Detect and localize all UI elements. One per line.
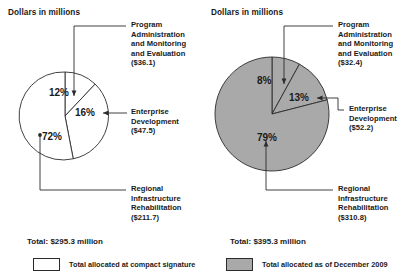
callout-program-line-2: Administration xyxy=(131,30,205,40)
slice-percent-program-left: 12% xyxy=(49,87,69,98)
legend-label-compact-signature: Total allocated at compact signature xyxy=(69,260,195,269)
callout-regional-left: Regional Infrastructure Rehabilitation (… xyxy=(131,184,205,222)
callout-program-line-3: and Monitoring xyxy=(338,39,409,49)
callout-regional-amount: ($310.8) xyxy=(338,213,409,223)
callout-regional-line-3: Rehabilitation xyxy=(131,203,205,213)
callout-regional-line-1: Regional xyxy=(131,184,205,194)
callout-regional-line-2: Infrastructure xyxy=(338,194,409,204)
callout-program-amount: ($32.4) xyxy=(338,58,409,68)
callout-regional-amount: ($211.7) xyxy=(131,213,205,223)
slice-percent-enterprise-right: 13% xyxy=(289,92,309,103)
legend-swatch-december-2009 xyxy=(226,258,253,271)
legend-left: Total allocated at compact signature xyxy=(33,258,195,271)
callout-program-line-4: and Evaluation xyxy=(131,49,205,59)
legend-label-december-2009: Total allocated as of December 2009 xyxy=(262,260,388,269)
legend-right: Total allocated as of December 2009 xyxy=(226,258,388,271)
slice-percent-regional-left: 72% xyxy=(42,131,62,142)
total-label-left: Total: $295.3 million xyxy=(27,237,103,246)
callout-regional-line-2: Infrastructure xyxy=(131,194,205,204)
callout-program-line-2: Administration xyxy=(338,30,409,40)
callout-regional-line-3: Rehabilitation xyxy=(338,203,409,213)
callout-program-left: Program Administration and Monitoring an… xyxy=(131,20,205,68)
callout-enterprise-amount: ($52.2) xyxy=(349,123,409,133)
callout-program-line-4: and Evaluation xyxy=(338,49,409,59)
total-label-right: Total: $395.3 million xyxy=(230,237,306,246)
callout-enterprise-line-2: Development xyxy=(131,117,205,127)
slice-percent-program-right: 8% xyxy=(257,75,271,86)
pie-slice-regional-left xyxy=(19,72,73,160)
slice-percent-regional-right: 79% xyxy=(257,132,277,143)
pie-panel-compact-signature: Dollars in millions xyxy=(0,0,205,279)
callout-program-line-1: Program xyxy=(338,20,409,30)
callout-program-right: Program Administration and Monitoring an… xyxy=(338,20,409,68)
callout-regional-right: Regional Infrastructure Rehabilitation (… xyxy=(338,184,409,222)
two-pie-chart-figure: Dollars in millions xyxy=(0,0,409,279)
callout-enterprise-line-1: Enterprise xyxy=(349,104,409,114)
callout-program-line-3: and Monitoring xyxy=(131,39,205,49)
slice-percent-enterprise-left: 16% xyxy=(75,107,95,118)
legend-swatch-compact-signature xyxy=(33,258,60,271)
callout-program-line-1: Program xyxy=(131,20,205,30)
callout-enterprise-amount: ($47.5) xyxy=(131,126,205,136)
callout-regional-line-1: Regional xyxy=(338,184,409,194)
callout-program-amount: ($36.1) xyxy=(131,58,205,68)
callout-enterprise-right: Enterprise Development ($52.2) xyxy=(349,104,409,133)
callout-enterprise-line-2: Development xyxy=(349,114,409,124)
callout-enterprise-line-1: Enterprise xyxy=(131,107,205,117)
pie-panel-december-2009: Dollars in millions xyxy=(204,0,409,279)
callout-enterprise-left: Enterprise Development ($47.5) xyxy=(131,107,205,136)
